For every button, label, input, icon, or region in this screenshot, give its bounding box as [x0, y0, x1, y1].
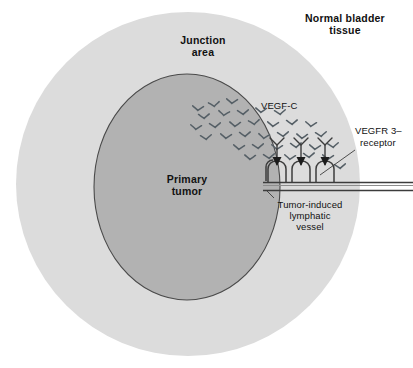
- lymphangiogenesis-diagram: Normal bladder tissue Junction area Prim…: [0, 0, 413, 368]
- lymphatic-vessel-line1: Tumor-induced: [278, 199, 343, 210]
- lymphatic-vessel-line2: lymphatic: [289, 210, 330, 221]
- normal-bladder-tissue-line1: Normal bladder: [305, 12, 385, 24]
- vegfr3-line1: VEGFR 3–: [355, 125, 402, 136]
- vegf-c-label: VEGF-C: [261, 100, 298, 111]
- junction-area-line2: area: [192, 46, 214, 58]
- primary-tumor-line2: tumor: [172, 185, 203, 197]
- label-vegfr3-receptor: VEGFR 3– receptor: [355, 125, 402, 148]
- diagram-root: Normal bladder tissue Junction area Prim…: [0, 0, 413, 368]
- primary-tumor-line1: Primary: [167, 173, 208, 185]
- lymphatic-vessel-line3: vessel: [296, 221, 324, 232]
- vegfr3-line2: receptor: [360, 137, 396, 148]
- junction-area-line1: Junction: [180, 34, 225, 46]
- normal-bladder-tissue-line2: tissue: [329, 24, 361, 36]
- label-primary-tumor: Primary tumor: [167, 173, 208, 197]
